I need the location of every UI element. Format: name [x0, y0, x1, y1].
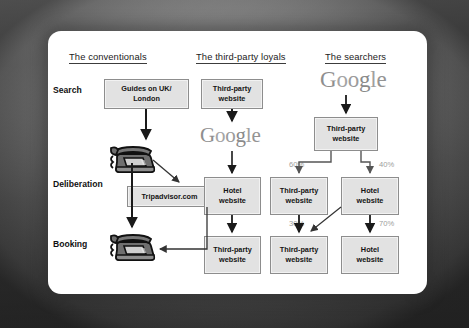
arrow-tripadvisor-to-phone: [160, 207, 207, 249]
arrow-hotel-to-third-party-diagonal: [311, 207, 341, 231]
arrow-phone-to-tripadvisor: [153, 160, 179, 182]
arrow-split-60: [299, 151, 331, 173]
arrow-split-40: [361, 151, 370, 173]
arrow-layer: [48, 31, 427, 294]
diagram-canvas: The conventionals The third-party loyals…: [48, 31, 427, 294]
